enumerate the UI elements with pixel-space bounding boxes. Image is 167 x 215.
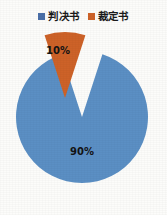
pie-chart-plot-area: 90% 10% bbox=[0, 28, 167, 215]
legend-swatch-blue-icon bbox=[38, 13, 45, 20]
legend-label-blue: 判决书 bbox=[48, 11, 79, 22]
legend-item-orange[interactable]: 裁定书 bbox=[88, 11, 129, 22]
pie-chart-svg: 90% 10% bbox=[0, 28, 167, 215]
pie-chart-figure: 判决书 裁定书 90% 10% bbox=[0, 0, 167, 215]
pie-label-orange: 10% bbox=[46, 45, 70, 56]
legend-swatch-orange-icon bbox=[88, 13, 95, 20]
chart-legend: 判决书 裁定书 bbox=[0, 11, 167, 22]
legend-item-판결서-blue[interactable]: 判决书 bbox=[38, 11, 79, 22]
legend-label-orange: 裁定书 bbox=[98, 11, 129, 22]
pie-slice-blue[interactable] bbox=[16, 54, 148, 183]
pie-label-blue: 90% bbox=[70, 146, 94, 157]
